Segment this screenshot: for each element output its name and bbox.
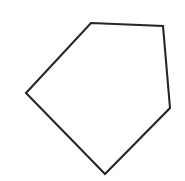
pentagon-figure [0,0,185,181]
drawing-canvas [0,0,185,181]
